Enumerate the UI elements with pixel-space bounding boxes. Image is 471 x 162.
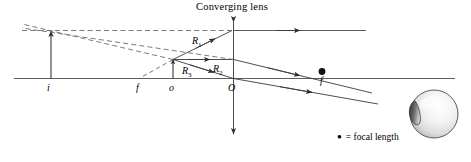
legend: ●= focal length (337, 133, 399, 143)
ray-3-direction-arrow (190, 65, 214, 73)
ray-label-2: R2 (213, 64, 223, 77)
axis-label-image: i (47, 83, 50, 93)
ray-2-refracted-arrow (268, 68, 300, 76)
converging-lens-ray-diagram: Converging lens i f o O f R1 R2 R3 ●= fo… (0, 0, 471, 162)
ray-3-refracted-arrow (280, 87, 312, 93)
ray-label-3-sub: 3 (188, 71, 192, 79)
figure-title: Converging lens (196, 2, 268, 13)
ray-label-1: R1 (192, 36, 202, 49)
axis-label-focal-right: f (320, 76, 323, 86)
axis-label-object: o (169, 83, 174, 93)
ray-diagram-canvas (0, 0, 471, 162)
ray-label-1-sub: 1 (198, 41, 202, 49)
observer-eye-icon (409, 90, 458, 138)
legend-text: = focal length (346, 132, 399, 142)
ray-2-refracted (234, 60, 373, 94)
legend-dot-marker: ● (337, 132, 342, 141)
ray-label-2-sub: 2 (219, 69, 223, 77)
axis-label-focal-left: f (136, 83, 139, 93)
ray-label-3: R3 (182, 66, 192, 79)
axis-label-lens-center: O (228, 83, 235, 93)
ray-3-virtual-extension (22, 24, 173, 60)
focal-point-dot-right (319, 68, 326, 75)
focal-construction-dash (140, 60, 173, 79)
